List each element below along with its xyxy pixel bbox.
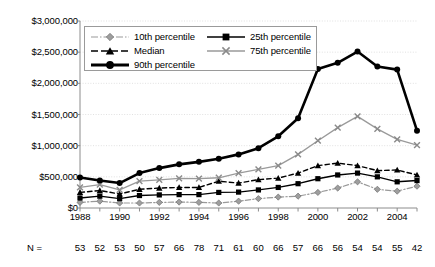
data-point (176, 161, 182, 167)
x-axis-tick-label: 2002 (338, 212, 378, 222)
x-axis-tick-label: 1994 (179, 212, 219, 222)
data-point (394, 67, 400, 73)
data-point (255, 196, 261, 202)
data-point (335, 185, 341, 191)
data-point (374, 126, 380, 132)
x-axis-tick-label: 2004 (377, 212, 417, 222)
data-point (156, 199, 162, 205)
legend-label-median: Median (134, 46, 165, 56)
legend-key-75th-percentile-icon (206, 45, 246, 57)
data-point (315, 138, 321, 144)
data-point (97, 194, 102, 199)
data-point (216, 200, 222, 206)
legend-key-median-icon (90, 45, 130, 57)
data-point (315, 189, 321, 195)
data-point (216, 156, 222, 162)
data-point (414, 128, 420, 134)
data-point (137, 193, 142, 198)
data-point (355, 170, 360, 175)
percentile-line-chart: $0$500,000$1,000,000$1,500,000$2,000,000… (0, 0, 435, 267)
x-axis-labels: 198819901992199419961998200020022004 (0, 212, 435, 230)
data-point (295, 151, 301, 157)
data-point (335, 125, 341, 131)
data-point (355, 113, 361, 119)
x-axis-tick-label: 1988 (60, 212, 100, 222)
x-axis-tick-label: 1990 (100, 212, 140, 222)
data-point (255, 145, 261, 151)
data-point (354, 179, 360, 185)
legend-label-10th-percentile: 10th percentile (134, 32, 195, 42)
legend-label-25th-percentile: 25th percentile (250, 32, 311, 42)
data-point (136, 200, 142, 206)
data-point (196, 199, 202, 205)
legend-item-75th-percentile: 75th percentile (206, 44, 311, 57)
series-line (80, 52, 417, 184)
x-axis-tick-label: 1998 (258, 212, 298, 222)
data-point (276, 185, 281, 190)
legend-label-75th-percentile: 75th percentile (250, 46, 311, 56)
data-point (375, 174, 380, 179)
data-point (236, 151, 242, 157)
data-point (395, 179, 400, 184)
data-point (256, 187, 261, 192)
data-point (414, 178, 419, 183)
x-axis-tick-label: 2000 (298, 212, 338, 222)
data-point (414, 183, 420, 189)
data-point (77, 174, 83, 180)
data-point (295, 115, 301, 121)
data-point (97, 178, 103, 184)
data-point (374, 186, 380, 192)
data-point (315, 176, 320, 181)
data-point (176, 199, 182, 205)
data-point (295, 193, 301, 199)
legend-item-90th-percentile: 90th percentile (90, 58, 195, 71)
data-point (335, 60, 341, 66)
x-axis-tick-label: 1996 (219, 212, 259, 222)
data-point (335, 172, 340, 177)
data-point (117, 196, 122, 201)
data-point (156, 165, 162, 171)
data-point (157, 192, 162, 197)
data-point (236, 190, 241, 195)
sample-size-value: 42 (405, 243, 429, 253)
data-point (374, 64, 380, 70)
data-point (275, 133, 281, 139)
data-point (295, 181, 300, 186)
data-point (136, 170, 142, 176)
legend-item-25th-percentile: 25th percentile (206, 30, 311, 43)
chart-legend: 10th percentile 25th percentile Median 7… (84, 26, 317, 71)
data-point (196, 192, 201, 197)
legend-key-10th-percentile-icon (90, 31, 130, 43)
x-axis-tick-label: 1992 (139, 212, 179, 222)
legend-key-25th-percentile-icon (206, 31, 246, 43)
data-point (235, 198, 241, 204)
legend-key-90th-percentile-icon (90, 59, 130, 71)
data-point (97, 198, 103, 204)
data-point (275, 194, 281, 200)
data-point (117, 180, 123, 186)
data-point (77, 195, 82, 200)
data-point (177, 192, 182, 197)
sample-size-row: N = 535253505766787161606657665654545542 (0, 243, 435, 259)
legend-item-10th-percentile: 10th percentile (90, 30, 195, 43)
data-point (355, 49, 361, 55)
sample-size-label: N = (27, 243, 42, 253)
legend-item-median: Median (90, 44, 165, 57)
data-point (394, 188, 400, 194)
data-point (196, 159, 202, 165)
data-point (216, 190, 221, 195)
legend-label-90th-percentile: 90th percentile (134, 60, 195, 70)
